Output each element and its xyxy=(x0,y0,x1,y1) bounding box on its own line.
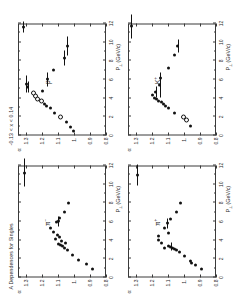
y-tick xyxy=(152,165,153,168)
data-point xyxy=(49,226,52,229)
data-point xyxy=(69,125,72,128)
panel-pi-plus: 0246810120.80.91.1.11.21.3P⊥ (GeV/c)απ+ xyxy=(128,165,216,277)
x-tick xyxy=(213,60,216,61)
y-tick-label: 1. xyxy=(181,279,187,290)
x-minor-tick xyxy=(214,248,216,249)
x-tick xyxy=(18,202,21,203)
x-minor-tick xyxy=(18,125,20,126)
x-minor-tick xyxy=(18,211,20,212)
x-minor-tick xyxy=(128,32,130,33)
data-point xyxy=(163,246,166,249)
x-minor-tick xyxy=(18,106,20,107)
y-tick xyxy=(216,132,217,135)
data-point xyxy=(25,82,28,85)
x-tick-label: 4 xyxy=(218,238,224,241)
x-minor-tick xyxy=(128,50,130,51)
x-axis-label: P⊥ (GeV/c) xyxy=(225,43,231,70)
y-tick xyxy=(26,165,27,168)
x-tick-label: 8 xyxy=(218,59,224,62)
x-tick-label: 12 xyxy=(108,20,114,26)
data-point xyxy=(157,234,160,237)
y-tick xyxy=(90,23,91,26)
data-point xyxy=(194,263,197,266)
x-minor-tick xyxy=(104,88,106,89)
x-tick xyxy=(128,164,131,165)
y-tick-label: 1. xyxy=(71,137,77,148)
data-point xyxy=(31,90,36,95)
x-tick xyxy=(103,239,106,240)
x-tick xyxy=(18,239,21,240)
data-point xyxy=(58,114,63,119)
y-tick xyxy=(42,165,43,168)
x-minor-tick xyxy=(214,69,216,70)
y-axis-label: α xyxy=(16,290,22,293)
y-tick xyxy=(74,274,75,277)
kinematic-cut-annotation: -0.13 < x < 0.14 xyxy=(8,106,14,145)
y-tick-label: 0.9 xyxy=(87,279,93,290)
x-tick xyxy=(128,60,131,61)
x-minor-tick xyxy=(214,174,216,175)
x-tick xyxy=(213,183,216,184)
y-tick xyxy=(74,165,75,168)
x-tick xyxy=(18,116,21,117)
y-tick-label: 1.2 xyxy=(39,137,45,148)
x-tick-label: 4 xyxy=(108,238,114,241)
x-tick-label: 2 xyxy=(108,115,114,118)
x-tick xyxy=(103,41,106,42)
data-point xyxy=(178,250,181,253)
data-point xyxy=(189,124,192,127)
data-point xyxy=(54,237,57,240)
y-tick xyxy=(200,165,201,168)
x-minor-tick xyxy=(214,211,216,212)
data-point xyxy=(189,259,192,262)
y-tick xyxy=(106,165,107,168)
y-tick xyxy=(106,132,107,135)
x-minor-tick xyxy=(18,230,20,231)
x-minor-tick xyxy=(128,211,130,212)
y-tick xyxy=(184,165,185,168)
x-tick xyxy=(213,116,216,117)
data-point xyxy=(41,89,44,92)
x-tick-label: 4 xyxy=(108,96,114,99)
x-tick-label: 0 xyxy=(218,134,224,137)
x-minor-tick xyxy=(18,248,20,249)
x-minor-tick xyxy=(104,69,106,70)
x-tick-label: 6 xyxy=(108,220,114,223)
x-tick xyxy=(213,41,216,42)
y-tick xyxy=(58,274,59,277)
y-axis-label: α xyxy=(126,290,132,293)
figure-title: A Dependences for Singles xyxy=(8,223,14,289)
data-point xyxy=(175,210,178,213)
x-tick xyxy=(103,258,106,259)
x-minor-tick xyxy=(104,192,106,193)
data-point xyxy=(166,221,169,224)
panel-pi-minus: 0246810120.80.91.1.11.21.3P⊥ (GeV/c)απ− xyxy=(18,165,106,277)
x-tick-label: 2 xyxy=(108,257,114,260)
y-tick xyxy=(106,274,107,277)
data-point xyxy=(167,244,170,247)
x-tick xyxy=(103,220,106,221)
y-tick xyxy=(184,23,185,26)
data-point xyxy=(151,93,154,96)
x-minor-tick xyxy=(214,125,216,126)
y-tick xyxy=(136,132,137,135)
y-tick-label: 0.8 xyxy=(103,137,109,148)
x-minor-tick xyxy=(18,50,20,51)
data-point xyxy=(77,258,80,261)
y-tick xyxy=(216,274,217,277)
x-tick-label: 10 xyxy=(108,181,114,187)
data-point xyxy=(52,230,55,233)
x-minor-tick xyxy=(18,69,20,70)
y-tick xyxy=(168,274,169,277)
x-tick xyxy=(128,78,131,79)
x-axis-label: P⊥ (GeV/c) xyxy=(115,43,121,70)
y-tick xyxy=(136,23,137,26)
y-tick-label: 1.2 xyxy=(39,279,45,290)
x-tick xyxy=(128,116,131,117)
y-tick xyxy=(200,23,201,26)
data-point xyxy=(56,233,59,236)
panel-frame xyxy=(18,165,106,277)
y-tick xyxy=(200,132,201,135)
y-tick-label: 1.1 xyxy=(165,137,171,148)
x-minor-tick xyxy=(18,88,20,89)
